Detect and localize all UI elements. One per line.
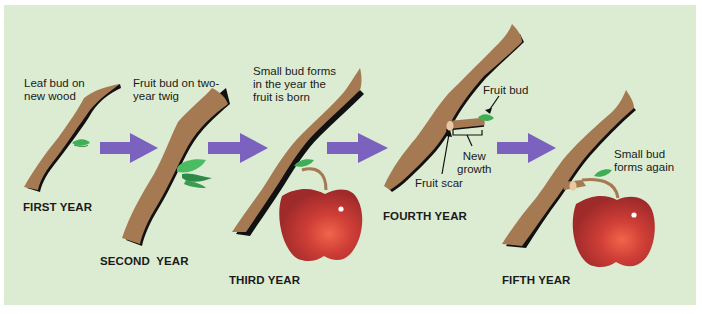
label-fifth-year: FIFTH YEAR [502,274,571,286]
caption-second-year: Fruit bud on two- year twig [133,77,219,103]
label-first-year: FIRST YEAR [23,201,92,213]
apple-fifth-year [573,180,655,267]
callout-fruit-scar: Fruit scar [415,177,463,190]
label-third-year: THIRD YEAR [229,274,300,286]
leaf-bud-icon [72,139,90,146]
branch-second-year [122,88,230,246]
caption-third-year: Small bud forms in the year the fruit is… [253,65,336,104]
caption-first-year: Leaf bud on new wood [24,77,85,103]
callout-new-growth: New growth [457,150,492,176]
arrow-icon [497,133,556,163]
arrow-icon [208,133,268,163]
label-fourth-year: FOURTH YEAR [383,210,467,222]
branch-fourth-year [384,24,524,192]
small-bud-fifth-icon [594,169,612,177]
apple-third-year [279,169,362,261]
arrow-icon [327,133,388,163]
fruit-bud-icon [177,159,212,188]
label-second-year: SECOND YEAR [100,255,189,267]
arrow-icon [100,133,158,163]
caption-fifth-year: Small bud forms again [614,148,674,174]
callout-fruit-bud: Fruit bud [483,84,528,97]
